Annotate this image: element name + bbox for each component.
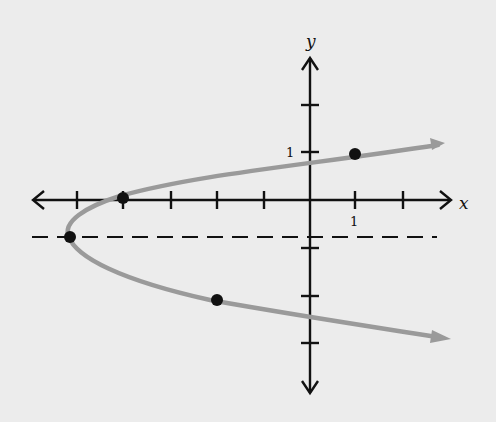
x-axis-label: x xyxy=(459,193,469,213)
point-1-1 xyxy=(349,148,361,160)
y-axis xyxy=(301,58,319,393)
curve-bottom-arrow-icon xyxy=(430,330,451,343)
point-vertex xyxy=(64,231,76,243)
point-x-intercept xyxy=(117,192,129,204)
parabola-chart: y x 1 1 xyxy=(0,0,496,422)
curve-top-arrow-icon xyxy=(430,138,445,150)
data-points xyxy=(64,148,361,306)
y-tick-label-1: 1 xyxy=(286,145,294,160)
point-neg2-neg2 xyxy=(211,294,223,306)
x-tick-label-1: 1 xyxy=(350,214,358,229)
y-axis-label: y xyxy=(305,31,316,51)
parabola-curve xyxy=(68,145,438,337)
